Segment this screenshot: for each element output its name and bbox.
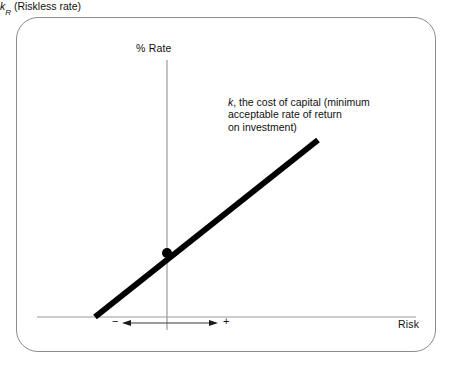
arrow-head-right-icon <box>209 320 218 326</box>
cost-of-capital-line <box>95 140 318 317</box>
cost-of-capital-line-3: on investment) <box>228 121 297 133</box>
figure-root: % Rate Risk − + kR (Riskless rate) k, th… <box>0 0 453 371</box>
direction-arrow-group <box>122 320 218 326</box>
arrow-head-left-icon <box>122 320 131 326</box>
cost-of-capital-line-2: acceptable rate of return <box>228 108 342 120</box>
cost-of-capital-annotation: k, the cost of capital (minimum acceptab… <box>228 96 418 133</box>
negative-direction-sign: − <box>112 316 118 327</box>
cost-of-capital-line-1: , the cost of capital (minimum <box>233 96 370 108</box>
x-axis-label: Risk <box>398 318 419 330</box>
y-axis-label: % Rate <box>136 42 172 54</box>
riskless-rate-subscript: R <box>5 8 11 17</box>
positive-direction-sign: + <box>223 316 229 327</box>
riskless-rate-point <box>162 248 172 258</box>
